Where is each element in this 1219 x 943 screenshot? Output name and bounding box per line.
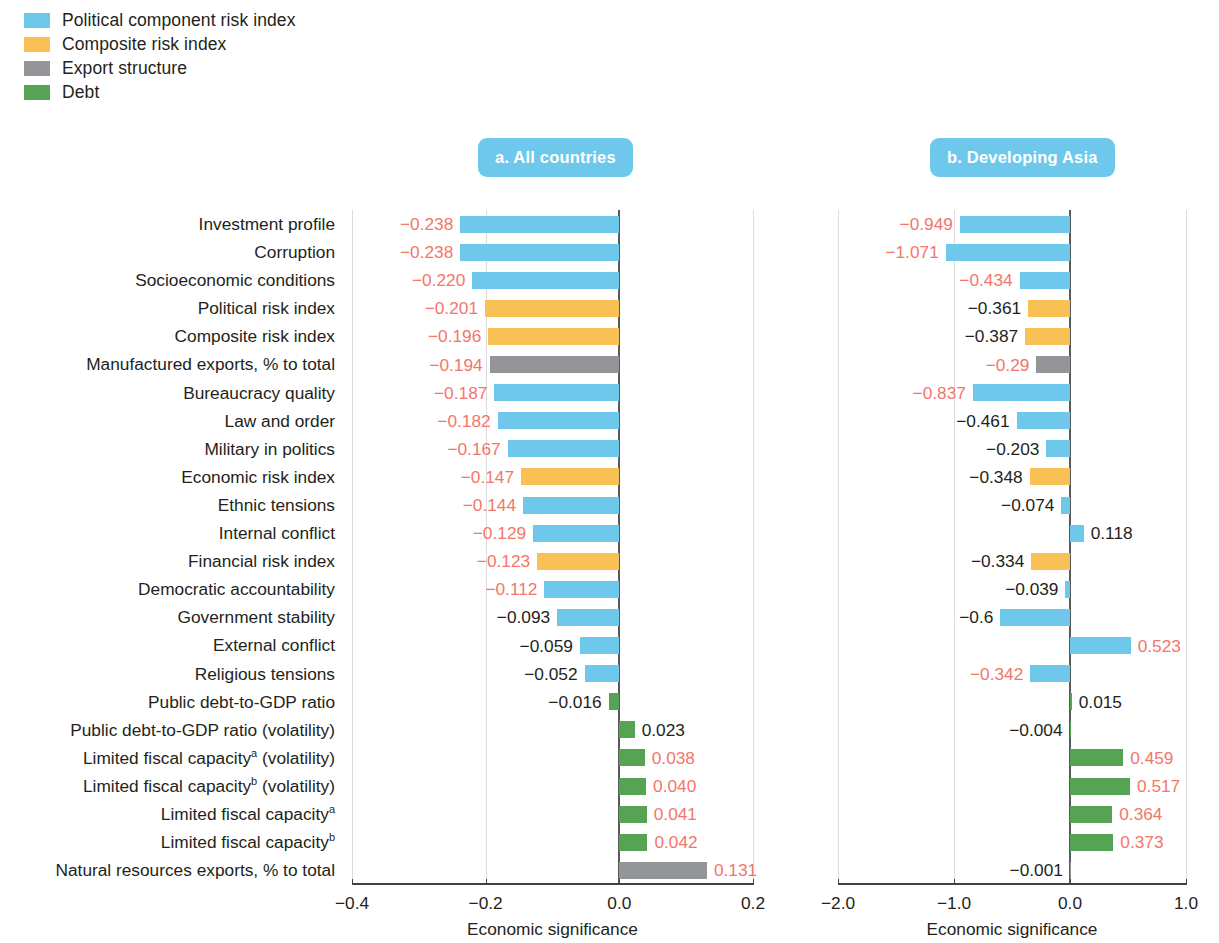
- axis-title: Economic significance: [838, 919, 1186, 940]
- legend-swatch-debt: [24, 85, 50, 100]
- bar-row: −0.016: [352, 688, 753, 716]
- legend-item-label: Export structure: [62, 58, 187, 79]
- bar: [946, 244, 1070, 261]
- bar-row: 0.042: [352, 828, 753, 856]
- axis-tick-label: 0.0: [1058, 893, 1082, 914]
- category-label: Government stability: [0, 603, 335, 631]
- bar-row: 0.459: [838, 744, 1186, 772]
- bar-row: −0.074: [838, 491, 1186, 519]
- bar: [1070, 806, 1112, 823]
- bar: [1028, 300, 1070, 317]
- category-label: Composite risk index: [0, 322, 335, 350]
- bar-row: −0.001: [838, 856, 1186, 884]
- bar-value-label: −0.434: [959, 266, 1012, 294]
- category-label: Financial risk index: [0, 547, 335, 575]
- category-label: Economic risk index: [0, 463, 335, 491]
- bar-value-label: 0.023: [642, 716, 685, 744]
- bar-row: 0.373: [838, 828, 1186, 856]
- chart-panel-developing-asia: −0.949−1.071−0.434−0.361−0.387−0.29−0.83…: [838, 210, 1186, 885]
- bar: [1065, 581, 1070, 598]
- bar-value-label: −0.144: [463, 491, 516, 519]
- bar-row: 0.015: [838, 688, 1186, 716]
- axis-tick-label: 0.0: [607, 893, 631, 914]
- bar-value-label: −0.004: [1009, 716, 1062, 744]
- bar: [619, 749, 644, 766]
- bar-row: −0.342: [838, 660, 1186, 688]
- bar: [460, 244, 619, 261]
- bar-row: −0.238: [352, 210, 753, 238]
- bar: [619, 862, 707, 879]
- bar: [609, 693, 620, 710]
- bar-row: −0.203: [838, 435, 1186, 463]
- bar: [1020, 272, 1070, 289]
- bar-value-label: −0.194: [429, 351, 482, 379]
- legend-item: Export structure: [24, 56, 444, 80]
- axis-tickmark: [1070, 879, 1071, 885]
- bar-value-label: −0.196: [428, 322, 481, 350]
- category-label: Democratic accountability: [0, 575, 335, 603]
- bar: [1070, 862, 1072, 879]
- bar-row: −0.196: [352, 322, 753, 350]
- bar: [1046, 440, 1070, 457]
- legend-item: Political component risk index: [24, 8, 444, 32]
- bar: [1070, 749, 1123, 766]
- gridline: [1186, 210, 1187, 885]
- bar-value-label: −0.837: [913, 379, 966, 407]
- bar-row: −0.434: [838, 266, 1186, 294]
- bar-row: −0.123: [352, 547, 753, 575]
- bar-row: −0.348: [838, 463, 1186, 491]
- bar-value-label: 0.042: [654, 828, 697, 856]
- bar-value-label: 0.459: [1130, 744, 1173, 772]
- bar: [1070, 525, 1084, 542]
- axis-tickmark: [954, 879, 955, 885]
- category-label: Socioeconomic conditions: [0, 266, 335, 294]
- bar-value-label: 0.373: [1120, 828, 1163, 856]
- plot-area-b: −0.949−1.071−0.434−0.361−0.387−0.29−0.83…: [838, 210, 1186, 885]
- axis-tick-label: −0.2: [469, 893, 503, 914]
- bar-value-label: −0.074: [1001, 491, 1054, 519]
- legend-item-label: Debt: [62, 82, 99, 103]
- bar: [1070, 834, 1113, 851]
- bar-value-label: −0.238: [400, 238, 453, 266]
- bar-value-label: −0.001: [1010, 856, 1063, 884]
- bar-row: −0.238: [352, 238, 753, 266]
- bar-row: −0.220: [352, 266, 753, 294]
- bar: [498, 412, 620, 429]
- bar: [1036, 356, 1070, 373]
- category-label: Internal conflict: [0, 519, 335, 547]
- bar-row: 0.364: [838, 800, 1186, 828]
- axis-tickmark: [352, 879, 353, 885]
- bar: [619, 778, 646, 795]
- bar-row: 0.131: [352, 856, 753, 884]
- bar: [580, 637, 619, 654]
- bar: [490, 356, 620, 373]
- bar: [533, 525, 619, 542]
- bar-value-label: −0.220: [412, 266, 465, 294]
- bar-value-label: −0.052: [524, 660, 577, 688]
- bar-value-label: −0.461: [956, 407, 1009, 435]
- bar-value-label: −0.112: [485, 575, 537, 603]
- bar: [619, 834, 647, 851]
- bar-row: −0.052: [352, 660, 753, 688]
- bar-value-label: −0.949: [900, 210, 953, 238]
- bar: [521, 468, 619, 485]
- bar-value-label: 0.041: [654, 800, 697, 828]
- bar-row: −0.6: [838, 603, 1186, 631]
- bar-row: −0.093: [352, 603, 753, 631]
- category-axis-labels: Investment profileCorruptionSocioeconomi…: [0, 210, 335, 884]
- bar: [1070, 637, 1131, 654]
- category-label: Public debt-to-GDP ratio (volatility): [0, 716, 335, 744]
- category-label: Public debt-to-GDP ratio: [0, 688, 335, 716]
- chart-panel-all-countries: −0.238−0.238−0.220−0.201−0.196−0.194−0.1…: [352, 210, 753, 885]
- category-label: Corruption: [0, 238, 335, 266]
- axis-tickmark: [1186, 879, 1187, 885]
- bar-row: −0.194: [352, 351, 753, 379]
- bar: [557, 609, 619, 626]
- bar-value-label: −0.201: [425, 294, 478, 322]
- category-label: Ethnic tensions: [0, 491, 335, 519]
- bar: [1031, 553, 1070, 570]
- bar: [1061, 497, 1070, 514]
- category-label: External conflict: [0, 631, 335, 659]
- bar: [494, 384, 619, 401]
- bar-row: −0.201: [352, 294, 753, 322]
